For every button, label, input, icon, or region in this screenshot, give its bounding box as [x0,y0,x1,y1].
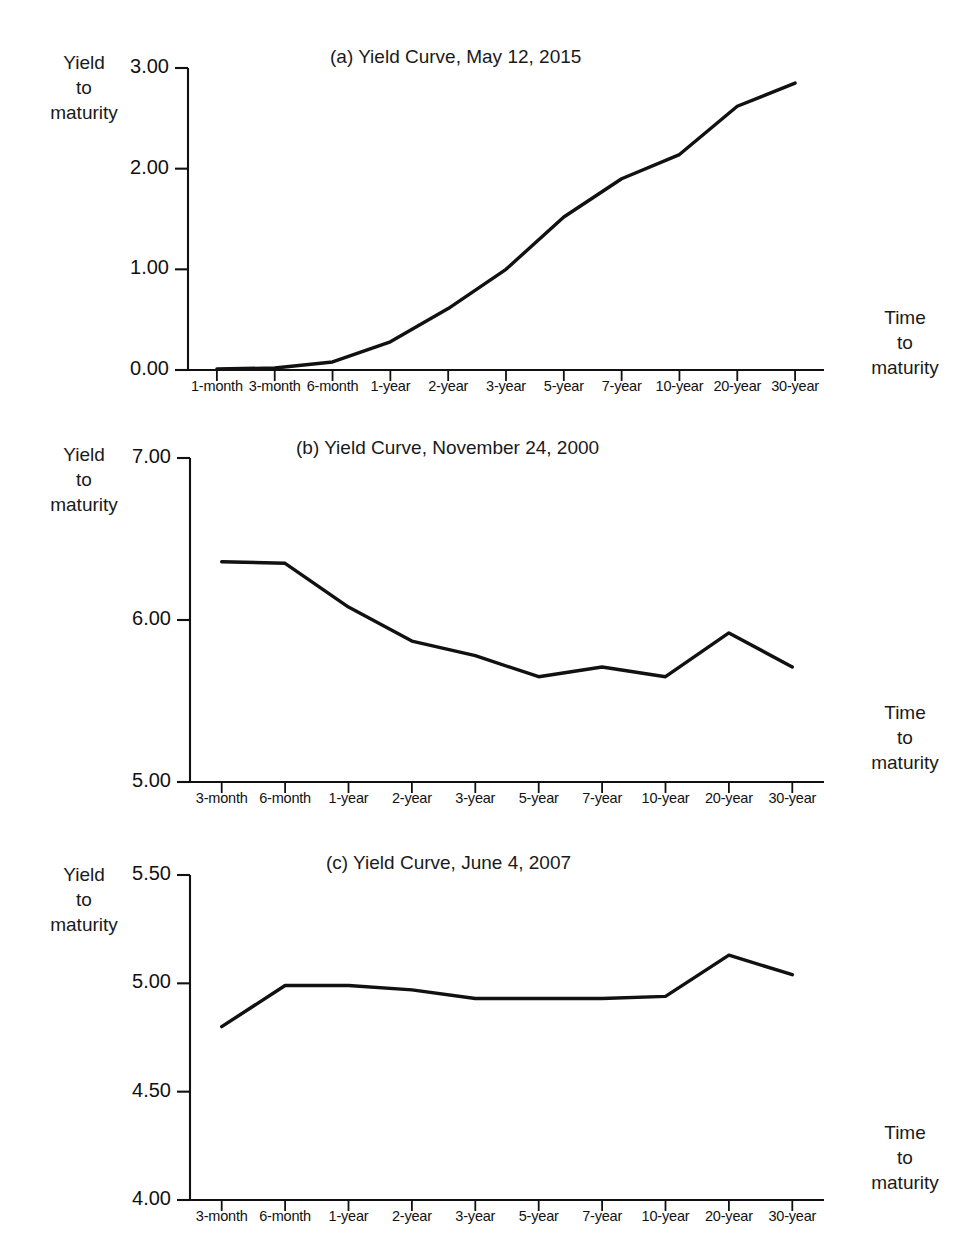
x-tick-label: 6-month [307,378,359,394]
data-series-line-a [217,83,795,369]
x-tick-label: 1-year [329,1208,369,1224]
x-tick-label: 10-year [642,1208,690,1224]
y-ticks-c [177,875,190,1200]
x-tick-label: 30-year [768,790,816,806]
x-tick-label: 6-month [259,1208,311,1224]
axis-lines-b [190,458,824,782]
x-tick-label: 20-year [705,790,753,806]
axis-lines-c [190,875,824,1200]
y-tick-label: 4.50 [85,1079,171,1102]
data-series-line-b [222,562,793,677]
y-tick-label: 3.00 [83,55,169,78]
x-tick-label: 2-year [428,378,468,394]
x-tick-label: 3-month [249,378,301,394]
x-tick-label: 2-year [392,1208,432,1224]
x-tick-label: 3-month [196,790,248,806]
y-tick-label: 0.00 [83,357,169,380]
y-tick-label: 1.00 [83,256,169,279]
y-tick-label: 2.00 [83,156,169,179]
x-tick-label: 20-year [713,378,761,394]
chart-panel-a: Yield to maturity (a) Yield Curve, May 1… [0,0,964,412]
data-series-line-c [222,955,793,1027]
x-tick-label: 7-year [582,1208,622,1224]
y-tick-label: 4.00 [85,1187,171,1210]
y-tick-label: 5.00 [85,970,171,993]
x-tick-label: 3-year [455,790,495,806]
chart-panel-c: Yield to maturity (c) Yield Curve, June … [0,830,964,1248]
y-tick-label: 6.00 [85,607,171,630]
x-tick-label: 5-year [519,1208,559,1224]
x-tick-label: 30-year [771,378,819,394]
x-tick-label: 6-month [259,790,311,806]
y-tick-label: 5.00 [85,769,171,792]
y-ticks-a [175,68,188,370]
y-tick-label: 5.50 [85,862,171,885]
x-tick-label: 7-year [602,378,642,394]
x-tick-label: 10-year [656,378,704,394]
x-tick-label: 5-year [519,790,559,806]
x-tick-label: 3-month [196,1208,248,1224]
x-tick-label: 1-month [191,378,243,394]
x-tick-label: 20-year [705,1208,753,1224]
x-tick-label: 3-year [486,378,526,394]
x-tick-label: 7-year [582,790,622,806]
x-tick-label: 1-year [329,790,369,806]
plot-area-c [0,830,964,1248]
x-tick-label: 3-year [455,1208,495,1224]
x-tick-label: 30-year [768,1208,816,1224]
x-tick-label: 5-year [544,378,584,394]
y-ticks-b [177,458,190,782]
y-tick-label: 7.00 [85,445,171,468]
chart-panel-b: Yield to maturity (b) Yield Curve, Novem… [0,412,964,830]
x-tick-label: 10-year [642,790,690,806]
x-tick-label: 1-year [370,378,410,394]
x-tick-label: 2-year [392,790,432,806]
